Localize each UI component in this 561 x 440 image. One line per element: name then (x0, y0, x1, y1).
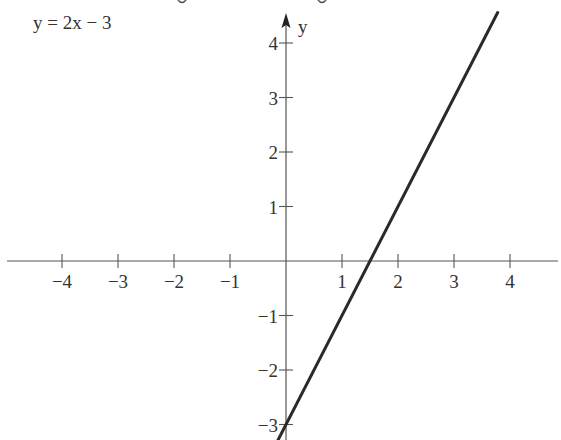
x-tick-label: 2 (393, 271, 403, 292)
axes: y (7, 13, 558, 440)
x-tick-label: 4 (505, 271, 515, 292)
cutoff-title-fragment (178, 0, 326, 3)
y-tick-label: −2 (258, 360, 278, 381)
y-tick-label: 3 (269, 88, 279, 109)
x-tick-label: −4 (52, 271, 73, 292)
coordinate-plane: y −4−3−2−11234−3−2−11234 (0, 0, 561, 440)
line-series (278, 12, 498, 440)
y-tick-label: −1 (258, 306, 278, 327)
y-tick-label: 4 (269, 33, 279, 54)
x-tick-label: 3 (449, 271, 459, 292)
y-tick-label: −3 (258, 415, 278, 436)
y-tick-label: 2 (269, 142, 279, 163)
x-tick-label: −2 (164, 271, 184, 292)
ticks: −4−3−2−11234−3−2−11234 (52, 33, 515, 436)
y-axis-label: y (298, 16, 308, 37)
line-y-equals-2x-minus-3 (278, 12, 498, 440)
x-tick-label: 1 (337, 271, 347, 292)
x-tick-label: −3 (108, 271, 128, 292)
y-tick-label: 1 (269, 197, 279, 218)
x-tick-label: −1 (220, 271, 240, 292)
